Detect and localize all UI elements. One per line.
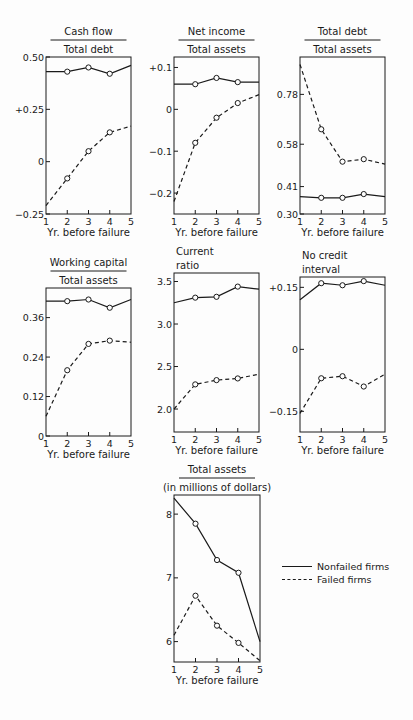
chart-title-denominator: Total debt — [63, 44, 113, 55]
data-point-marker — [236, 570, 241, 575]
failed-firms-line — [46, 126, 131, 206]
data-point-marker — [340, 374, 345, 379]
chart-1: Cash flowTotal debt0.50+0.250−0.2512345Y… — [15, 26, 134, 238]
x-tick-label: 1 — [297, 434, 303, 445]
x-tick-label: 4 — [361, 434, 367, 445]
y-tick-label: 0.12 — [23, 391, 44, 402]
x-axis-label: Yr. before failure — [174, 227, 258, 238]
chart-title-line2: interval — [302, 264, 340, 275]
y-tick-label: 7 — [166, 572, 172, 583]
data-point-marker — [361, 384, 366, 389]
plot-frame — [300, 277, 385, 432]
x-tick-label: 2 — [192, 664, 198, 675]
data-point-marker — [319, 281, 324, 286]
x-tick-label: 4 — [235, 434, 241, 445]
chart-title-numerator: Total debt — [317, 26, 367, 37]
solid-line-swatch — [282, 566, 312, 567]
chart-3: Total debtTotal assets0.780.580.410.3012… — [277, 26, 388, 238]
y-tick-label: 0.41 — [277, 181, 298, 192]
x-tick-label: 4 — [361, 216, 367, 227]
data-point-marker — [107, 305, 112, 310]
x-tick-label: 5 — [256, 216, 262, 227]
data-point-marker — [86, 65, 91, 70]
y-tick-label: −0.1 — [149, 146, 172, 157]
data-point-marker — [107, 338, 112, 343]
chart-7: Total assets(in millions of dollars)8761… — [163, 464, 271, 686]
y-tick-label: −0.25 — [15, 209, 44, 220]
data-point-marker — [86, 149, 91, 154]
data-point-marker — [340, 195, 345, 200]
y-tick-label: 0.36 — [23, 312, 44, 323]
failed-firms-line — [300, 374, 385, 413]
x-axis-label: Yr. before failure — [46, 227, 130, 238]
nonfailed-firms-line — [174, 498, 260, 641]
data-point-marker — [107, 130, 112, 135]
x-tick-label: 4 — [235, 664, 241, 675]
x-tick-label: 1 — [171, 434, 177, 445]
data-point-marker — [214, 378, 219, 383]
data-point-marker — [236, 640, 241, 645]
data-point-marker — [361, 157, 366, 162]
chart-title-numerator: Net income — [188, 26, 245, 37]
x-axis-label: Yr. before failure — [174, 445, 258, 456]
x-tick-label: 3 — [213, 216, 219, 227]
x-tick-label: 3 — [339, 216, 345, 227]
data-point-marker — [193, 82, 198, 87]
data-point-marker — [193, 295, 198, 300]
x-tick-label: 5 — [382, 216, 388, 227]
y-tick-label: 0 — [38, 156, 44, 167]
data-point-marker — [193, 140, 198, 145]
data-point-marker — [65, 299, 70, 304]
x-tick-label: 1 — [43, 216, 49, 227]
x-tick-label: 3 — [339, 434, 345, 445]
plot-frame — [46, 57, 131, 214]
chart-5: Currentratio3.53.02.52.012345Yr. before … — [157, 246, 262, 456]
data-point-marker — [193, 382, 198, 387]
data-point-marker — [319, 195, 324, 200]
x-tick-label: 2 — [64, 216, 70, 227]
x-tick-label: 5 — [128, 216, 134, 227]
data-point-marker — [65, 368, 70, 373]
data-point-marker — [214, 557, 219, 562]
chart-title-numerator: Working capital — [50, 257, 128, 268]
data-point-marker — [361, 191, 366, 196]
chart-2: Net incomeTotal assets+0.10−0.1−0.212345… — [149, 26, 262, 238]
y-tick-label: 0.78 — [277, 89, 298, 100]
x-tick-label: 5 — [257, 664, 263, 675]
x-tick-label: 2 — [318, 434, 324, 445]
x-tick-label: 1 — [43, 438, 49, 449]
chart-4: Working capitalTotal assets0.360.240.120… — [23, 257, 134, 460]
data-point-marker — [214, 75, 219, 80]
chart-title-denominator: Total assets — [312, 44, 371, 55]
data-point-marker — [65, 69, 70, 74]
y-tick-label: 0 — [166, 104, 172, 115]
data-point-marker — [340, 159, 345, 164]
x-tick-label: 2 — [192, 216, 198, 227]
y-tick-label: +0.25 — [15, 104, 44, 115]
chart-title-numerator: Total assets — [187, 464, 246, 475]
y-tick-label: 0.24 — [23, 352, 44, 363]
plot-frame — [300, 57, 385, 214]
legend-nonfailed-label: Nonfailed firms — [317, 560, 389, 573]
data-point-marker — [107, 71, 112, 76]
data-point-marker — [214, 294, 219, 299]
y-tick-label: 6 — [166, 636, 172, 647]
data-point-marker — [65, 176, 70, 181]
chart-title-denominator: (in millions of dollars) — [163, 482, 271, 493]
x-tick-label: 4 — [107, 438, 113, 449]
failed-firms-line — [174, 95, 259, 202]
financial-ratio-charts: Cash flowTotal debt0.50+0.250−0.2512345Y… — [0, 0, 413, 720]
y-tick-label: −0.2 — [149, 188, 172, 199]
x-tick-label: 2 — [318, 216, 324, 227]
x-tick-label: 1 — [297, 216, 303, 227]
x-axis-label: Yr. before failure — [300, 227, 384, 238]
y-tick-label: 2.0 — [157, 404, 172, 415]
data-point-marker — [86, 341, 91, 346]
data-point-marker — [193, 593, 198, 598]
y-tick-label: 0.58 — [277, 139, 298, 150]
y-tick-label: 8 — [166, 509, 172, 520]
failed-firms-line — [300, 64, 385, 164]
x-axis-label: Yr. before failure — [175, 675, 259, 686]
data-point-marker — [319, 127, 324, 132]
x-tick-label: 5 — [382, 434, 388, 445]
